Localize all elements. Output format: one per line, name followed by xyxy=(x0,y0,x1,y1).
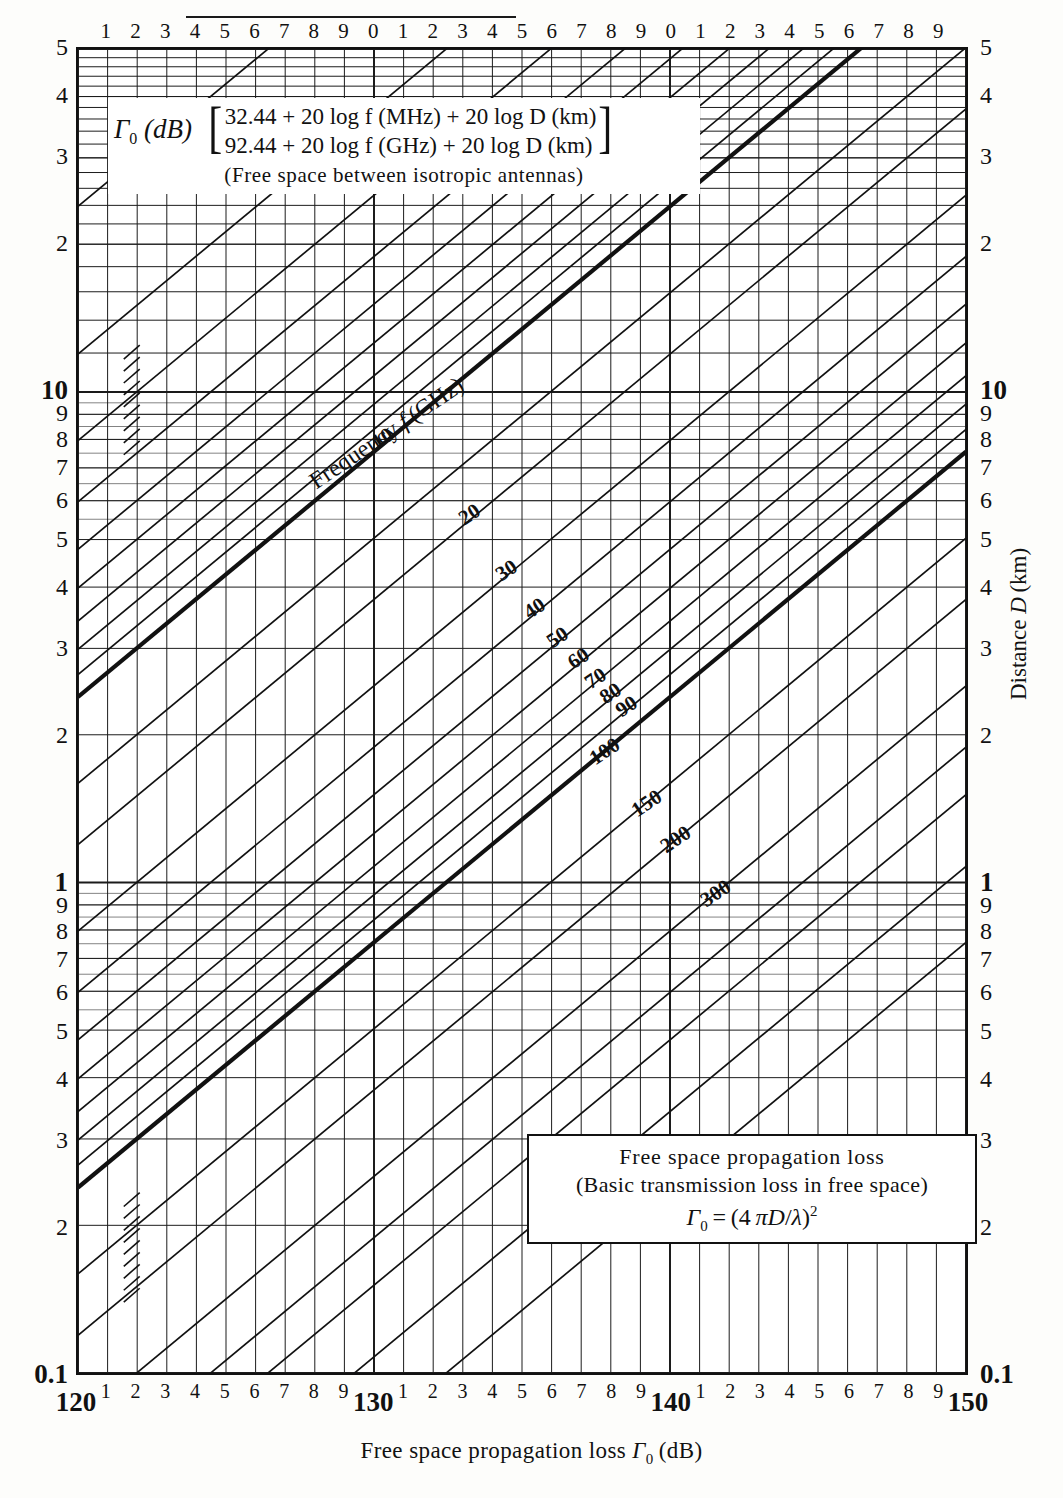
y-axis-label-left-6: 6 xyxy=(6,980,68,1004)
x-top-tick-139: 9 xyxy=(630,21,652,42)
x-top-tick-135: 5 xyxy=(511,21,533,42)
x-top-tick-121: 1 xyxy=(95,21,117,42)
y-axis-label-right-3: 3 xyxy=(980,1128,1042,1152)
y-axis-label-left-5: 5 xyxy=(6,1019,68,1043)
y-axis-label-right-6: 6 xyxy=(980,488,1042,512)
x-top-tick-132: 2 xyxy=(422,21,444,42)
y-axis-caption: Distance D (km) xyxy=(1006,548,1032,700)
y-axis-label-right-8: 8 xyxy=(980,919,1042,943)
x-axis-minor-label-123: 3 xyxy=(155,1381,175,1401)
bracket-group: [ 32.44 + 20 log f (MHz) + 20 log D (km)… xyxy=(206,102,615,161)
legend-formula: Γ0 = (4 πD/λ)2 xyxy=(686,1203,817,1235)
x-axis-minor-label-128: 8 xyxy=(304,1381,324,1401)
x-top-tick-146: 6 xyxy=(838,21,860,42)
x-top-tick-141: 1 xyxy=(689,21,711,42)
x-top-tick-144: 4 xyxy=(779,21,801,42)
header-formula-block: Γ0 (dB) [ 32.44 + 20 log f (MHz) + 20 lo… xyxy=(108,98,700,194)
y-axis-label-right-0.1: 0.1 xyxy=(980,1361,1042,1388)
x-top-tick-143: 3 xyxy=(749,21,771,42)
x-axis-minor-label-132: 2 xyxy=(423,1381,443,1401)
x-top-tick-131: 1 xyxy=(392,21,414,42)
y-axis-label-right-4: 4 xyxy=(980,1067,1042,1091)
y-axis-label-right-9: 9 xyxy=(980,893,1042,917)
x-axis-minor-label-122: 2 xyxy=(125,1381,145,1401)
y-axis-label-left-8: 8 xyxy=(6,919,68,943)
top-rule xyxy=(186,16,516,18)
x-top-tick-127: 7 xyxy=(273,21,295,42)
x-axis-minor-label-134: 4 xyxy=(482,1381,502,1401)
x-axis-minor-label-124: 4 xyxy=(185,1381,205,1401)
x-top-tick-142: 2 xyxy=(719,21,741,42)
gamma-unit: (dB) xyxy=(144,114,192,144)
chart-page: Γ0 (dB) [ 32.44 + 20 log f (MHz) + 20 lo… xyxy=(0,0,1063,1498)
x-axis-minor-label-127: 7 xyxy=(274,1381,294,1401)
x-axis-minor-label-126: 6 xyxy=(244,1381,264,1401)
x-top-tick-134: 4 xyxy=(481,21,503,42)
y-axis-label-left-9: 9 xyxy=(6,401,68,425)
y-axis-label-left-7: 7 xyxy=(6,455,68,479)
x-top-tick-126: 6 xyxy=(243,21,265,42)
y-axis-label-right-5: 5 xyxy=(980,527,1042,551)
y-axis-label-left-3: 3 xyxy=(6,144,68,168)
x-top-tick-125: 5 xyxy=(214,21,236,42)
right-bracket-icon: ] xyxy=(599,102,613,161)
formula-line-ghz: 92.44 + 20 log f (GHz) + 20 log D (km) xyxy=(225,131,597,160)
x-axis-minor-label-136: 6 xyxy=(542,1381,562,1401)
x-top-tick-138: 8 xyxy=(600,21,622,42)
x-top-tick-130: 0 xyxy=(362,21,384,42)
x-axis-minor-label-144: 4 xyxy=(780,1381,800,1401)
formula-line-mhz: 32.44 + 20 log f (MHz) + 20 log D (km) xyxy=(225,102,597,131)
gamma-symbol: Γ0 (dB) xyxy=(114,114,192,148)
x-top-tick-133: 3 xyxy=(452,21,474,42)
x-axis-minor-label-121: 1 xyxy=(96,1381,116,1401)
y-axis-label-left-5: 5 xyxy=(6,527,68,551)
y-axis-label-right-7: 7 xyxy=(980,455,1042,479)
x-top-tick-140: 0 xyxy=(660,21,682,42)
x-top-tick-147: 7 xyxy=(868,21,890,42)
x-axis-minor-label-125: 5 xyxy=(215,1381,235,1401)
y-axis-label-left-0.1: 0.1 xyxy=(6,1361,68,1388)
y-axis-label-right-7: 7 xyxy=(980,947,1042,971)
y-axis-label-left-7: 7 xyxy=(6,947,68,971)
gamma-subscript: 0 xyxy=(129,131,137,148)
x-top-tick-149: 9 xyxy=(927,21,949,42)
left-bracket-icon: [ xyxy=(208,102,222,161)
x-axis-minor-label-135: 5 xyxy=(512,1381,532,1401)
y-axis-label-left-4: 4 xyxy=(6,83,68,107)
y-axis-label-left-4: 4 xyxy=(6,575,68,599)
y-axis-label-right-6: 6 xyxy=(980,980,1042,1004)
x-axis-minor-label-142: 2 xyxy=(720,1381,740,1401)
y-axis-label-right-3: 3 xyxy=(980,636,1042,660)
y-axis-label-left-5: 5 xyxy=(6,35,68,59)
y-axis-label-right-8: 8 xyxy=(980,427,1042,451)
y-axis-label-right-4: 4 xyxy=(980,575,1042,599)
y-axis-label-left-8: 8 xyxy=(6,427,68,451)
x-top-tick-123: 3 xyxy=(154,21,176,42)
x-top-tick-129: 9 xyxy=(333,21,355,42)
x-top-tick-137: 7 xyxy=(570,21,592,42)
y-axis-label-left-3: 3 xyxy=(6,1128,68,1152)
legend-title: Free space propagation loss xyxy=(619,1144,884,1170)
y-axis-label-right-5: 5 xyxy=(980,35,1042,59)
x-axis-minor-label-141: 1 xyxy=(690,1381,710,1401)
x-axis-minor-label-131: 1 xyxy=(393,1381,413,1401)
y-axis-label-right-5: 5 xyxy=(980,1019,1042,1043)
y-axis-label-right-2: 2 xyxy=(980,1215,1042,1239)
legend-box: Free space propagation loss (Basic trans… xyxy=(527,1134,977,1244)
y-axis-label-right-3: 3 xyxy=(980,144,1042,168)
x-axis-minor-label-147: 7 xyxy=(869,1381,889,1401)
x-axis-minor-label-143: 3 xyxy=(750,1381,770,1401)
y-axis-label-left-2: 2 xyxy=(6,1215,68,1239)
x-axis-caption: Free space propagation loss Γ0 (dB) xyxy=(0,1438,1063,1468)
y-axis-label-left-6: 6 xyxy=(6,488,68,512)
legend-subtitle: (Basic transmission loss in free space) xyxy=(576,1172,928,1198)
x-top-tick-145: 5 xyxy=(808,21,830,42)
isotropic-note: (Free space between isotropic antennas) xyxy=(114,163,694,188)
y-axis-label-left-3: 3 xyxy=(6,636,68,660)
y-axis-label-right-2: 2 xyxy=(980,231,1042,255)
x-axis-minor-label-133: 3 xyxy=(453,1381,473,1401)
x-axis-minor-label-145: 5 xyxy=(809,1381,829,1401)
x-axis-minor-label-148: 8 xyxy=(899,1381,919,1401)
y-axis-label-left-9: 9 xyxy=(6,893,68,917)
x-axis-major-label-150: 150 xyxy=(941,1389,995,1416)
